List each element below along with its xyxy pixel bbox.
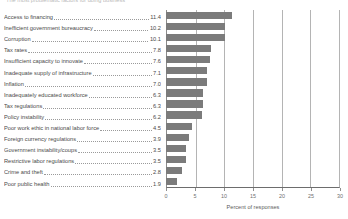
dot-leader <box>51 180 152 187</box>
x-axis-tick-label: 25 <box>308 192 314 200</box>
category-label: Foreign currency regulations <box>4 136 77 143</box>
dot-leader <box>54 13 149 20</box>
dot-leader <box>93 69 152 76</box>
bar <box>166 34 225 41</box>
category-value: 3.9 <box>152 136 161 143</box>
bar <box>166 78 207 85</box>
bar <box>166 45 211 52</box>
bar <box>166 56 210 63</box>
x-axis-tick <box>166 188 167 191</box>
x-axis-tick-label: 10 <box>221 192 227 200</box>
bar-row <box>166 54 340 65</box>
category-label: Restrictive labor regulations <box>4 158 75 165</box>
category-label: Poor public health <box>4 181 51 188</box>
category-label-column: Access to financing11.4Inefficient gover… <box>4 10 161 188</box>
bar-row <box>166 165 340 176</box>
bar <box>166 178 177 185</box>
bar <box>166 123 192 130</box>
category-label-row: Tax rates7.8 <box>4 43 161 54</box>
category-value: 6.3 <box>152 103 161 110</box>
bar-row <box>166 21 340 32</box>
bar <box>166 89 203 96</box>
chart-title: The most problematic factors for doing b… <box>6 0 306 5</box>
dot-leader <box>28 46 152 53</box>
x-axis-tick-label: 20 <box>279 192 285 200</box>
category-label-row: Poor public health1.9 <box>4 176 161 187</box>
category-label: Policy instability <box>4 114 45 121</box>
bar-row <box>166 65 340 76</box>
category-value: 7.0 <box>152 81 161 88</box>
dot-leader <box>32 35 149 42</box>
x-axis-tick <box>340 188 341 191</box>
category-label: Tax regulations <box>4 103 43 110</box>
dot-leader <box>45 113 151 120</box>
x-axis-title: Percent of responses <box>166 203 340 211</box>
category-label-row: Insufficient capacity to innovate7.6 <box>4 54 161 65</box>
category-label: Inflation <box>4 81 25 88</box>
category-label-row: Policy instability6.2 <box>4 110 161 121</box>
category-value: 3.5 <box>152 147 161 154</box>
category-label-row: Inflation7.0 <box>4 77 161 88</box>
x-axis-tick-label: 5 <box>194 192 197 200</box>
dot-leader <box>75 157 151 164</box>
category-value: 7.1 <box>152 70 161 77</box>
bar-row <box>166 10 340 21</box>
category-label: Inadequate supply of infrastructure <box>4 70 93 77</box>
bar <box>166 156 186 163</box>
dot-leader <box>78 146 152 153</box>
dot-leader <box>25 80 152 87</box>
bar-row <box>166 121 340 132</box>
bar <box>166 167 182 174</box>
bar <box>166 134 189 141</box>
x-axis-tick <box>253 188 254 191</box>
x-axis-tick-label: 30 <box>337 192 343 200</box>
plot-area <box>166 10 340 188</box>
category-label: Poor work ethic in national labor force <box>4 125 100 132</box>
bar-row <box>166 99 340 110</box>
bar <box>166 100 203 107</box>
category-label-row: Tax regulations6.3 <box>4 99 161 110</box>
x-axis-tick <box>195 188 196 191</box>
x-axis-tick <box>224 188 225 191</box>
category-label-row: Crime and theft2.8 <box>4 165 161 176</box>
bar-row <box>166 132 340 143</box>
dot-leader <box>77 135 152 142</box>
x-axis-tick <box>311 188 312 191</box>
category-value: 2.8 <box>152 169 161 176</box>
category-label-row: Corruption10.1 <box>4 32 161 43</box>
category-value: 3.5 <box>152 158 161 165</box>
category-label-row: Poor work ethic in national labor force4… <box>4 121 161 132</box>
category-label: Inadequately educated workforce <box>4 92 89 99</box>
x-axis-tick-labels: 051015202530 <box>166 192 340 201</box>
category-label: Crime and theft <box>4 169 44 176</box>
x-axis-tick-label: 0 <box>165 192 168 200</box>
category-label-row: Government instability/coups3.5 <box>4 143 161 154</box>
category-value: 6.2 <box>152 114 161 121</box>
category-label: Insufficient capacity to innovate <box>4 58 84 65</box>
category-value: 7.6 <box>152 58 161 65</box>
category-value: 1.9 <box>152 181 161 188</box>
bar-row <box>166 154 340 165</box>
category-label: Government instability/coups <box>4 147 78 154</box>
bar-row <box>166 77 340 88</box>
category-value: 10.1 <box>148 36 161 43</box>
category-value: 11.4 <box>149 14 161 21</box>
bar-row <box>166 110 340 121</box>
dot-leader <box>84 57 152 64</box>
dot-leader <box>100 124 151 131</box>
category-label-row: Restrictive labor regulations3.5 <box>4 154 161 165</box>
bar-row <box>166 32 340 43</box>
category-label: Inefficient government bureaucracy <box>4 25 94 32</box>
x-axis-tick <box>282 188 283 191</box>
bar-row <box>166 43 340 54</box>
category-value: 6.3 <box>152 92 161 99</box>
bar-row <box>166 176 340 187</box>
category-label-row: Access to financing11.4 <box>4 10 161 21</box>
bar-row <box>166 143 340 154</box>
bar-chart-figure: The most problematic factors for doing b… <box>0 0 348 219</box>
dot-leader <box>89 91 152 98</box>
category-value: 7.8 <box>152 47 161 54</box>
category-label: Corruption <box>4 36 32 43</box>
category-label-row: Inadequately educated workforce6.3 <box>4 88 161 99</box>
category-label-row: Foreign currency regulations3.9 <box>4 132 161 143</box>
